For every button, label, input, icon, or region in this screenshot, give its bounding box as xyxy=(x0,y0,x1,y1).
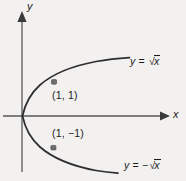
point-label-1-neg1: (1, −1) xyxy=(52,128,84,139)
parabola-figure: y x y = √x y = −√x (1, 1) (1, −1) xyxy=(0,0,186,181)
y-axis-arrowhead xyxy=(17,11,26,22)
point-marker-1-neg1 xyxy=(51,145,56,150)
point-label-1-1: (1, 1) xyxy=(52,90,78,101)
lower-curve-equation-label: y = −√x xyxy=(124,159,161,171)
x-axis-arrowhead xyxy=(160,112,170,121)
point-marker-1-1 xyxy=(51,80,56,85)
upper-curve-equation-label: y = √x xyxy=(130,55,160,67)
lower-eq-radicand: x xyxy=(154,159,160,171)
graph-canvas xyxy=(0,0,186,181)
upper-eq-radicand: x xyxy=(154,55,160,67)
y-axis-label: y xyxy=(27,1,33,12)
upper-eq-radical-group: √x xyxy=(148,55,160,67)
x-axis-label: x xyxy=(173,109,179,120)
lower-branch-curve xyxy=(23,116,119,173)
lower-eq-radical-group: √x xyxy=(148,159,160,171)
upper-branch-curve xyxy=(23,58,130,116)
